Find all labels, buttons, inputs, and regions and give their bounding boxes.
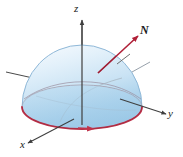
hemisphere-normal-vector-figure: z y x N [0, 0, 183, 157]
normal-vector-label: N [140, 24, 149, 36]
y-axis-label: y [168, 108, 173, 119]
figure-canvas [0, 0, 183, 157]
boundary-orientation-arrow [78, 128, 92, 129]
x-axis-label: x [20, 139, 25, 150]
z-axis-label: z [74, 3, 78, 14]
